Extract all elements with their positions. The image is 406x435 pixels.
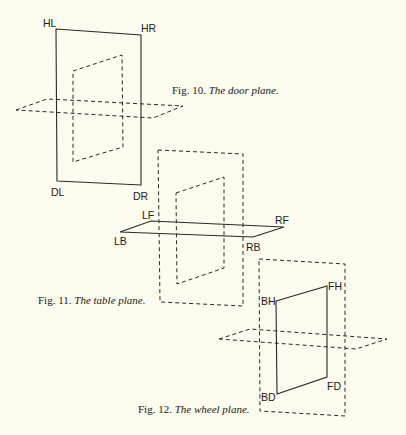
label-lb: LB bbox=[114, 235, 127, 247]
table-plane-solid bbox=[120, 221, 284, 237]
caption-fig12-number: Fig. 12. bbox=[138, 403, 172, 415]
caption-fig12-title: The wheel plane. bbox=[175, 403, 250, 415]
figure-table-plane: LF RF LB RB Fig. 11. The table plane. bbox=[38, 150, 289, 306]
caption-fig11-number: Fig. 11. bbox=[38, 294, 72, 306]
caption-fig11: Fig. 11. The table plane. bbox=[38, 294, 145, 306]
label-fh: FH bbox=[328, 280, 342, 292]
label-dr: DR bbox=[133, 190, 149, 202]
caption-fig10-title: The door plane. bbox=[209, 84, 279, 96]
wheel-plane-solid bbox=[276, 286, 327, 394]
label-hl: HL bbox=[43, 17, 57, 29]
label-lf: LF bbox=[142, 209, 154, 221]
table-inner-dashed-plane bbox=[176, 177, 224, 284]
figure-door-plane: HL HR DL DR Fig. 10. The door plane. bbox=[16, 17, 279, 202]
label-bd: BD bbox=[261, 391, 276, 403]
caption-fig10-number: Fig. 10. bbox=[172, 84, 206, 96]
caption-fig10: Fig. 10. The door plane. bbox=[172, 84, 279, 96]
label-hr: HR bbox=[141, 22, 157, 34]
diagram-canvas: HL HR DL DR Fig. 10. The door plane. LF … bbox=[0, 0, 406, 435]
figure-wheel-plane: BH FH BD FD Fig. 12. The wheel plane. bbox=[138, 259, 387, 416]
label-fd: FD bbox=[327, 380, 341, 392]
caption-fig12: Fig. 12. The wheel plane. bbox=[138, 403, 250, 415]
door-horizontal-dashed-plane bbox=[16, 99, 183, 118]
wheel-horizontal-dashed-plane bbox=[219, 329, 387, 349]
label-rb: RB bbox=[246, 241, 261, 253]
door-inner-dashed-plane bbox=[73, 55, 123, 162]
door-plane-solid bbox=[56, 29, 141, 185]
caption-fig11-title: The table plane. bbox=[74, 294, 145, 306]
label-bh: BH bbox=[261, 295, 276, 307]
table-outer-dashed-plane bbox=[158, 150, 243, 306]
label-dl: DL bbox=[51, 186, 65, 198]
label-rf: RF bbox=[275, 214, 289, 226]
